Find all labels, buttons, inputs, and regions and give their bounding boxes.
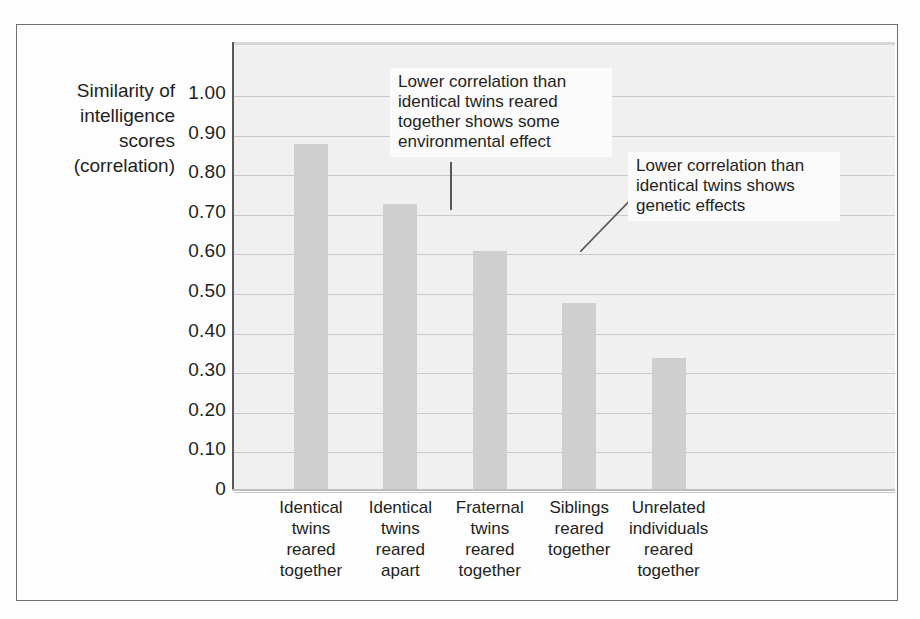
figure-container: Similarity of intelligence scores (corre…: [0, 0, 920, 619]
y-axis-tick-label: 0.40: [170, 321, 226, 340]
x-axis-tick-label-line: individuals: [605, 518, 733, 539]
y-axis-tick-label: 0.30: [170, 360, 226, 379]
x-axis-line: [232, 489, 895, 491]
y-axis-title-line-4: (correlation): [18, 153, 175, 178]
bar[interactable]: [294, 144, 328, 489]
x-axis-tick-label-line: Unrelated: [605, 497, 733, 518]
y-axis-tick-label: 0.90: [170, 123, 226, 142]
x-axis-tick-label-line: together: [426, 560, 554, 581]
y-axis-tick-label: 0.20: [170, 400, 226, 419]
bar[interactable]: [562, 303, 596, 489]
x-axis-tick-label-line: reared: [605, 539, 733, 560]
y-axis-title-line-1: Similarity of: [18, 78, 175, 103]
y-axis-title-line-2: intelligence: [18, 103, 175, 128]
bar[interactable]: [473, 251, 507, 489]
annotation-environmental-effect: Lower correlation than identical twins r…: [390, 68, 612, 157]
gridline: [234, 492, 895, 493]
y-axis-tick-label: 0.80: [170, 162, 226, 181]
x-axis-tick-labels: IdenticaltwinsrearedtogetherIdenticaltwi…: [234, 497, 895, 607]
y-axis-tick-label: 1.00: [170, 83, 226, 102]
bar[interactable]: [383, 204, 417, 489]
y-axis-tick-label: 0.60: [170, 241, 226, 260]
bar[interactable]: [652, 358, 686, 489]
gridline: [234, 294, 895, 295]
y-axis-tick-label: 0: [170, 479, 226, 498]
annotation-leader-line-1: [450, 162, 452, 210]
y-axis-line: [232, 42, 234, 491]
gridline: [234, 254, 895, 255]
y-axis-title-line-3: scores: [18, 128, 175, 153]
y-axis-tick-label: 0.70: [170, 202, 226, 221]
y-axis-tick-label: 0.50: [170, 281, 226, 300]
x-axis-tick-label-line: together: [605, 560, 733, 581]
y-axis-title-text-1: Similarity of: [77, 80, 175, 101]
y-axis-title-text-4: (correlation): [74, 155, 175, 176]
y-axis-title-text-2: intelligence: [80, 105, 175, 126]
y-axis-tick-labels: 1.000.900.800.700.600.500.400.300.200.10…: [166, 0, 226, 619]
y-axis-title: Similarity of intelligence scores (corre…: [18, 78, 175, 178]
y-axis-tick-label: 0.10: [170, 439, 226, 458]
annotation-genetic-effects: Lower correlation than identical twins s…: [628, 152, 840, 221]
x-axis-tick-label: Unrelatedindividualsrearedtogether: [605, 497, 733, 581]
